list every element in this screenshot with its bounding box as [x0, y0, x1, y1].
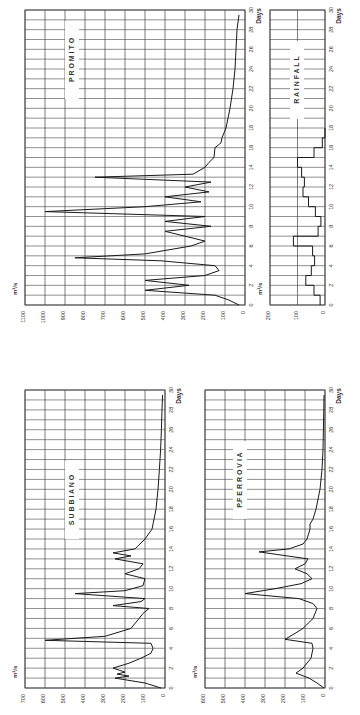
value-tick-label: 600	[120, 311, 126, 320]
value-tick-label: 100	[140, 694, 146, 703]
day-tick-label: 10	[328, 586, 334, 592]
value-tick-label: 700	[20, 694, 26, 703]
value-tick-label: 0	[320, 694, 326, 697]
day-tick-label: 16	[168, 526, 174, 532]
panel-title: R A I N F A L L	[293, 56, 300, 104]
day-tick-label: 16	[248, 145, 254, 151]
day-tick-label: 22	[328, 466, 334, 472]
panel-promito: 0100200300400500600700800900100011000246…	[12, 7, 263, 323]
day-tick-label: 8	[328, 607, 334, 610]
value-tick-label: 200	[280, 694, 286, 703]
panel-title: P.F E R R O V I A	[236, 452, 243, 507]
value-tick-label: 0	[240, 311, 246, 314]
day-tick-label: 24	[168, 447, 174, 453]
unit-label: m³/s	[12, 665, 18, 678]
panel-rainfall: 0100200024681012141618202224262830m³/sDa…	[257, 7, 343, 320]
day-tick-label: 30	[328, 7, 334, 13]
value-tick-label: 200	[200, 311, 206, 320]
day-tick-label: 16	[328, 526, 334, 532]
value-tick-label: 600	[200, 694, 206, 703]
day-tick-label: 22	[168, 466, 174, 472]
value-tick-label: 100	[220, 311, 226, 320]
day-tick-label: 8	[168, 607, 174, 610]
unit-label: m³/s	[12, 282, 18, 295]
day-tick-label: 8	[328, 225, 334, 228]
panel-subbiano: 0100200300400500600700024681012141618202…	[12, 387, 183, 703]
day-tick-label: 12	[328, 184, 334, 190]
day-tick-label: 12	[168, 566, 174, 572]
day-tick-label: 0	[328, 303, 334, 306]
value-tick-label: 500	[140, 311, 146, 320]
day-tick-label: 6	[328, 627, 334, 630]
value-tick-label: 400	[80, 694, 86, 703]
panel-title: S U B B I A N O	[68, 474, 75, 525]
day-tick-label: 20	[328, 105, 334, 111]
day-tick-label: 28	[328, 27, 334, 33]
day-tick-label: 24	[248, 66, 254, 72]
value-tick-label: 100	[293, 311, 299, 320]
day-tick-label: 12	[248, 184, 254, 190]
day-tick-label: 4	[328, 264, 334, 267]
days-axis-label: Days	[335, 8, 343, 24]
value-tick-label: 400	[160, 311, 166, 320]
value-tick-label: 800	[80, 311, 86, 320]
day-tick-label: 26	[168, 427, 174, 433]
day-tick-label: 14	[328, 546, 334, 552]
day-tick-label: 26	[248, 46, 254, 52]
day-tick-label: 24	[328, 447, 334, 453]
unit-label: m³/s	[257, 282, 263, 295]
day-tick-label: 2	[168, 667, 174, 670]
day-tick-label: 6	[168, 627, 174, 630]
day-tick-label: 4	[328, 647, 334, 650]
value-tick-label: 600	[40, 694, 46, 703]
day-tick-label: 0	[248, 303, 254, 306]
day-tick-label: 18	[328, 125, 334, 131]
value-tick-label: 200	[120, 694, 126, 703]
day-tick-label: 26	[328, 46, 334, 52]
day-tick-label: 14	[168, 546, 174, 552]
day-tick-label: 20	[328, 486, 334, 492]
day-tick-label: 18	[328, 506, 334, 512]
day-tick-label: 4	[168, 647, 174, 650]
day-tick-label: 18	[168, 506, 174, 512]
value-tick-label: 700	[100, 311, 106, 320]
value-tick-label: 900	[60, 311, 66, 320]
day-tick-label: 2	[328, 284, 334, 287]
day-tick-label: 28	[328, 407, 334, 413]
day-tick-label: 4	[248, 264, 254, 267]
value-tick-label: 200	[265, 311, 271, 320]
day-tick-label: 8	[248, 225, 254, 228]
day-tick-label: 14	[248, 164, 254, 170]
day-tick-label: 24	[328, 66, 334, 72]
day-tick-label: 28	[168, 407, 174, 413]
value-tick-label: 1000	[40, 311, 46, 323]
day-tick-label: 2	[248, 284, 254, 287]
chart-promito: 0100200300400500600700800900100011000246…	[0, 0, 360, 715]
day-tick-label: 6	[328, 244, 334, 247]
day-tick-label: 0	[168, 686, 174, 689]
day-tick-label: 22	[328, 86, 334, 92]
day-tick-label: 6	[248, 244, 254, 247]
days-axis-label: Days	[255, 8, 263, 24]
panel-title: P R O M I T O	[68, 37, 75, 82]
day-tick-label: 20	[248, 105, 254, 111]
day-tick-label: 30	[168, 387, 174, 393]
day-tick-label: 28	[248, 27, 254, 33]
series-line	[245, 395, 324, 688]
value-tick-label: 400	[240, 694, 246, 703]
value-tick-label: 300	[180, 311, 186, 320]
hydrograph-figure: 0100200300400500600700800900100011000246…	[0, 0, 360, 715]
day-tick-label: 18	[248, 125, 254, 131]
value-tick-label: 0	[320, 311, 326, 314]
day-tick-label: 14	[328, 164, 334, 170]
value-tick-label: 300	[260, 694, 266, 703]
unit-label: m³/s	[192, 665, 198, 678]
day-tick-label: 22	[248, 86, 254, 92]
value-tick-label: 500	[220, 694, 226, 703]
day-tick-label: 30	[248, 7, 254, 13]
day-tick-label: 0	[328, 686, 334, 689]
day-tick-label: 2	[328, 667, 334, 670]
days-axis-label: Days	[175, 388, 183, 404]
day-tick-label: 16	[328, 145, 334, 151]
value-tick-label: 1100	[20, 311, 26, 323]
